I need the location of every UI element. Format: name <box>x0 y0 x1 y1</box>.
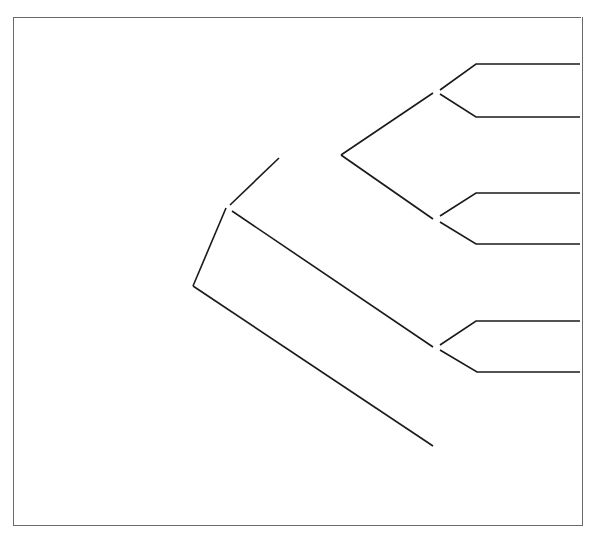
edge-launch-immediately <box>341 93 433 155</box>
edge-b1-enter <box>440 64 580 90</box>
decision-tree-diagram <box>0 0 593 539</box>
edge-b1-stay <box>440 94 580 117</box>
edge-continue-project <box>193 208 226 286</box>
edge-b2-enter <box>440 193 580 216</box>
edge-success <box>230 158 279 205</box>
edge-abort-project <box>193 286 433 446</box>
edge-c-stay <box>440 350 580 372</box>
edge-failure <box>232 211 433 347</box>
edge-b2-stay <box>440 222 580 244</box>
edge-postpone-launch <box>341 155 433 219</box>
edge-c-enter <box>440 321 580 345</box>
